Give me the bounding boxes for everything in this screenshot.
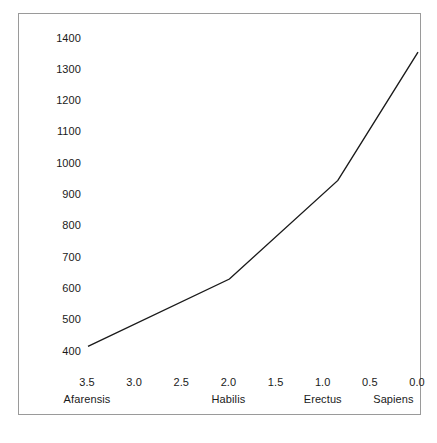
- x-axis-tick-2.5: 2.5: [173, 377, 189, 388]
- x-axis-tick-1.5: 1.5: [268, 377, 284, 388]
- x-axis-tick-1.0: 1.0: [315, 377, 331, 388]
- x-axis-category-erectus: Erectus: [304, 394, 342, 405]
- x-axis-tick-labels: 3.53.02.52.01.51.00.50.0AfarensisHabilis…: [0, 0, 437, 443]
- x-axis-category-sapiens: Sapiens: [373, 394, 413, 405]
- x-axis-tick-0.0: 0.0: [409, 377, 425, 388]
- x-axis-category-afarensis: Afarensis: [64, 394, 111, 405]
- x-axis-tick-0.5: 0.5: [362, 377, 378, 388]
- x-axis-category-habilis: Habilis: [212, 394, 246, 405]
- x-axis-tick-3.5: 3.5: [79, 377, 95, 388]
- x-axis-tick-3.0: 3.0: [126, 377, 142, 388]
- x-axis-tick-2.0: 2.0: [221, 377, 237, 388]
- chart-figure: 14001300120011001000900800700600500400 3…: [0, 0, 437, 443]
